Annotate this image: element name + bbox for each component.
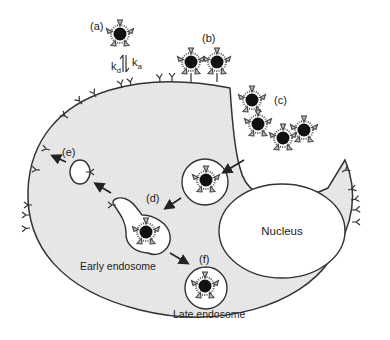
internalizing-nanoparticle bbox=[239, 86, 266, 112]
internalizing-nanoparticle bbox=[245, 110, 272, 136]
label-d: (d) bbox=[146, 192, 159, 204]
label-a: (a) bbox=[90, 20, 103, 32]
equilibrium-arrows bbox=[120, 55, 129, 72]
ka-label: ka bbox=[132, 56, 143, 71]
free-nanoparticle bbox=[107, 20, 134, 46]
late-endosome-label: Late endosome bbox=[173, 308, 246, 320]
early-endosome-label: Early endosome bbox=[80, 260, 156, 272]
internalizing-nanoparticle bbox=[291, 116, 318, 142]
label-b: (b) bbox=[202, 32, 215, 44]
kd-label: kd bbox=[111, 60, 121, 75]
label-f: (f) bbox=[199, 253, 209, 265]
nucleus-label: Nucleus bbox=[261, 225, 303, 237]
bound-nanoparticle bbox=[178, 48, 205, 74]
label-c: (c) bbox=[274, 94, 287, 106]
label-e: (e) bbox=[62, 146, 75, 158]
bound-nanoparticle bbox=[204, 48, 231, 74]
endocytosis-diagram: (a) kd ka (b) (c) (d) Early endosome (e)… bbox=[0, 0, 390, 340]
